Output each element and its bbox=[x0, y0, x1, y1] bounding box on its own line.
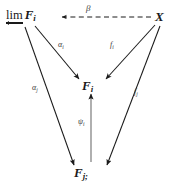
node-x: X bbox=[155, 10, 164, 25]
node-x-label: X bbox=[155, 9, 164, 24]
node-inverse-limit: limFi bbox=[6, 8, 36, 24]
left-arrow-icon bbox=[6, 21, 9, 25]
diagram-edges-canvas bbox=[0, 0, 177, 189]
edge-label-psi: ψi bbox=[78, 118, 84, 127]
edge-label-alpha-j-subscript: j bbox=[36, 87, 38, 93]
edge-label-alpha-j: αj bbox=[32, 84, 38, 93]
edge-alpha-j bbox=[25, 27, 74, 165]
edge-label-f-j: fj bbox=[134, 88, 138, 97]
node-inverse-limit-subscript: i bbox=[33, 13, 35, 23]
inverse-limit-operator: lim bbox=[6, 9, 23, 24]
commutative-diagram: limFi X Fi Fj; β αi αj fi fj ψi bbox=[0, 0, 177, 189]
edge-alpha-i bbox=[35, 26, 79, 79]
node-f-j: Fj; bbox=[74, 166, 88, 181]
edge-label-f-i-subscript: i bbox=[112, 44, 114, 50]
node-f-i-subscript: i bbox=[91, 84, 93, 94]
edge-label-psi-subscript: i bbox=[83, 121, 85, 127]
limit-underline bbox=[6, 22, 23, 23]
edge-f-i bbox=[106, 25, 155, 79]
edge-label-f-i: fi bbox=[110, 41, 114, 50]
edge-label-f-j-subscript: j bbox=[136, 91, 138, 97]
edge-label-beta-symbol: β bbox=[86, 3, 90, 13]
node-f-j-label: F bbox=[74, 165, 83, 180]
edge-label-beta: β bbox=[86, 4, 90, 14]
node-f-i: Fi bbox=[82, 79, 93, 94]
node-f-j-subscript: j; bbox=[83, 171, 88, 181]
edge-label-alpha-i-subscript: i bbox=[62, 44, 64, 50]
edge-label-alpha-i: αi bbox=[58, 41, 64, 50]
node-f-i-label: F bbox=[82, 78, 91, 93]
